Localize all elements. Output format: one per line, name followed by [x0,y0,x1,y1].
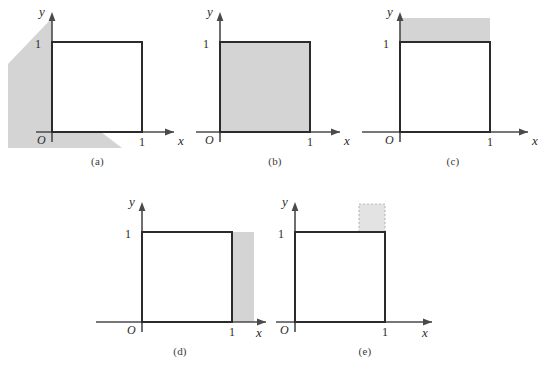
panel-a-svg: y x O 1 1 [0,0,195,155]
x-axis-arrow-a [165,129,174,136]
shaded-region-d [232,232,254,322]
panel-c: y x O 1 1 (c) [360,0,546,155]
y-tick-label-a: 1 [35,37,41,51]
x-axis-label-b: x [343,133,350,148]
x-axis-arrow-b [331,129,340,136]
shaded-region-c [400,18,490,42]
panel-b: y x O 1 1 (b) [190,0,360,155]
x-axis-label-c: x [531,133,538,148]
panel-caption-c: (c) [360,155,546,167]
origin-label-b: O [205,133,214,147]
figure-root: y x O 1 1 (a) y x O 1 1 (b) [0,0,546,366]
y-tick-label-e: 1 [278,227,284,241]
unit-square-c [400,42,490,132]
y-tick-label-b: 1 [203,37,209,51]
y-axis-label-a: y [37,4,45,19]
x-tick-label-a: 1 [139,135,145,149]
origin-label-a: O [37,133,46,147]
unit-square-d [142,232,232,322]
y-axis-label-b: y [205,4,213,19]
origin-label-e: O [280,323,289,337]
y-axis-arrow-d [139,202,146,211]
y-axis-arrow-c [397,12,404,21]
x-axis-arrow-c [519,129,528,136]
origin-label-d: O [127,323,136,337]
x-tick-label-b: 1 [307,135,313,149]
shaded-region-b [220,42,310,132]
x-axis-label-a: x [177,133,184,148]
panel-b-svg: y x O 1 1 [190,0,360,155]
panel-a: y x O 1 1 (a) [0,0,195,155]
y-tick-label-d: 1 [125,227,131,241]
x-axis-label-e: x [421,325,428,340]
panel-caption-d: (d) [90,345,270,357]
x-tick-label-d: 1 [229,325,235,339]
y-tick-label-c: 1 [383,37,389,51]
x-tick-label-e: 1 [382,325,388,339]
y-axis-arrow-b [217,12,224,21]
y-axis-arrow-a [49,12,56,21]
panel-e: y x O 1 1 (e) [270,190,460,345]
x-tick-label-c: 1 [487,135,493,149]
unit-square-a [52,42,142,132]
shaded-region-e [359,204,385,232]
x-axis-label-d: x [255,325,262,340]
origin-label-c: O [385,133,394,147]
panel-caption-e: (e) [270,345,460,357]
panel-c-svg: y x O 1 1 [360,0,546,155]
shaded-region-a [8,18,122,148]
y-axis-label-c: y [385,4,393,19]
y-axis-label-e: y [280,194,288,209]
panel-caption-b: (b) [190,155,360,167]
panel-e-svg: y x O 1 1 [270,190,460,345]
panel-d: y x O 1 1 (d) [90,190,270,345]
unit-square-e [295,232,385,322]
panel-caption-a: (a) [0,155,195,167]
y-axis-arrow-e [292,202,299,211]
panel-d-svg: y x O 1 1 [90,190,270,345]
y-axis-label-d: y [127,194,135,209]
